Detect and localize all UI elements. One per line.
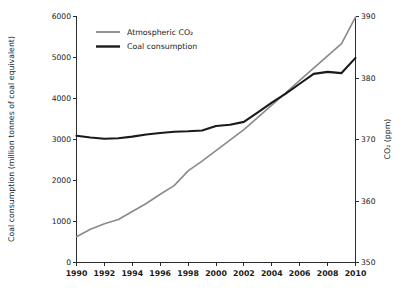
chart-container: 0100020003000400050006000 35036037038039… bbox=[0, 0, 404, 298]
y-right-tick-label: 390 bbox=[361, 12, 376, 21]
y-axis-right-title: CO₂ (ppm) bbox=[383, 119, 392, 160]
y-right-tick-label: 370 bbox=[361, 135, 376, 144]
y-right-tick-label: 360 bbox=[361, 197, 376, 206]
x-tick-label: 1990 bbox=[66, 269, 88, 278]
x-tick-label: 1992 bbox=[94, 269, 116, 278]
x-tick-label: 2010 bbox=[345, 269, 367, 278]
y-left-tick-label: 4000 bbox=[52, 94, 71, 103]
chart-background bbox=[0, 0, 404, 298]
x-tick-label: 2006 bbox=[289, 269, 311, 278]
legend-label: Atmospheric CO₂ bbox=[127, 28, 193, 37]
x-tick-label: 2002 bbox=[233, 269, 255, 278]
y-left-tick-label: 0 bbox=[66, 258, 71, 267]
y-left-tick-label: 5000 bbox=[52, 53, 71, 62]
x-tick-label: 1996 bbox=[149, 269, 171, 278]
y-right-tick-label: 350 bbox=[361, 258, 376, 267]
line-chart: 0100020003000400050006000 35036037038039… bbox=[0, 0, 404, 298]
x-tick-label: 2004 bbox=[261, 269, 283, 278]
y-right-tick-label: 380 bbox=[361, 74, 376, 83]
x-tick-label: 2008 bbox=[317, 269, 339, 278]
x-tick-label: 2000 bbox=[205, 269, 227, 278]
y-left-tick-label: 2000 bbox=[52, 176, 71, 185]
y-left-tick-label: 6000 bbox=[52, 12, 71, 21]
x-tick-label: 1994 bbox=[121, 269, 143, 278]
y-left-tick-label: 1000 bbox=[52, 217, 71, 226]
y-left-tick-label: 3000 bbox=[52, 135, 71, 144]
x-tick-label: 1998 bbox=[177, 269, 199, 278]
legend-label: Coal consumption bbox=[127, 42, 197, 51]
y-axis-left-title: Coal consumption (million tonnes of coal… bbox=[7, 36, 16, 242]
